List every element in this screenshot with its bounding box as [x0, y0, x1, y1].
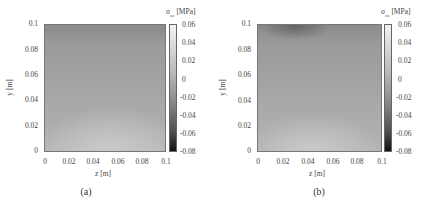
colorbar-tick: -0.06	[180, 129, 196, 138]
colorbar-tick: 0	[398, 75, 402, 84]
unit-label: [MPa]	[175, 7, 196, 16]
colorbar-label: σzz [MPa]	[381, 7, 411, 18]
colorbar-tick: -0.04	[180, 111, 196, 120]
colorbar-tick: -0.02	[396, 93, 412, 102]
colorbar-tick: 0.02	[398, 56, 411, 65]
colorbar-tick: -0.06	[396, 129, 412, 138]
x-tick: 0.1	[154, 157, 178, 166]
colorbar-tick: 0	[182, 75, 186, 84]
y-axis-label: y [m]	[218, 79, 227, 95]
y-tick: 0.04	[14, 95, 38, 104]
colorbar-tick: -0.04	[396, 111, 412, 120]
colorbar-a	[169, 24, 177, 152]
colorbar-tick: -0.02	[180, 93, 196, 102]
y-tick: 0.06	[227, 70, 251, 79]
x-tick: 0.04	[81, 157, 105, 166]
y-tick: 0	[227, 146, 251, 155]
heatmap-plot-b	[257, 24, 382, 152]
x-axis-label: z [m]	[95, 169, 111, 178]
y-axis-label: y [m]	[5, 79, 14, 95]
y-tick: 0.06	[14, 70, 38, 79]
colorbar-tick: 0.06	[398, 20, 411, 29]
x-tick: 0	[246, 157, 270, 166]
colorbar-tick: 0.04	[398, 38, 411, 47]
x-tick: 0.06	[106, 157, 130, 166]
x-tick: 0.04	[296, 157, 320, 166]
y-tick: 0.08	[227, 45, 251, 54]
y-tick: 0	[14, 146, 38, 155]
colorbar-tick: -0.08	[180, 147, 196, 156]
colorbar-b	[384, 24, 392, 152]
colorbar-tick: -0.08	[396, 147, 412, 156]
panel-a: 0.1 0.08 0.06 0.04 0.02 0 0 0.02 0.04 0.…	[0, 0, 210, 209]
heatmap-plot-a	[44, 24, 166, 152]
x-tick: 0	[33, 157, 57, 166]
colorbar-tick: 0.06	[182, 20, 195, 29]
x-tick: 0.02	[57, 157, 81, 166]
x-tick: 0.1	[370, 157, 394, 166]
x-tick: 0.08	[345, 157, 369, 166]
y-tick: 0.1	[227, 19, 251, 28]
y-tick: 0.08	[14, 45, 38, 54]
y-tick: 0.02	[14, 121, 38, 130]
unit-label: [MPa]	[390, 7, 411, 16]
x-axis-label: z [m]	[309, 169, 325, 178]
colorbar-label: σzz [MPa]	[166, 7, 196, 18]
y-tick: 0.04	[227, 96, 251, 105]
colorbar-tick: 0.02	[182, 56, 195, 65]
panel-caption: (b)	[304, 186, 334, 197]
y-tick: 0.02	[227, 121, 251, 130]
y-tick: 0.1	[14, 19, 38, 28]
x-tick: 0.08	[130, 157, 154, 166]
x-tick: 0.02	[271, 157, 295, 166]
panel-caption: (a)	[71, 186, 101, 197]
panel-b: 0.1 0.08 0.06 0.04 0.02 0 0 0.02 0.04 0.…	[213, 0, 421, 209]
x-tick: 0.06	[321, 157, 345, 166]
colorbar-tick: 0.04	[182, 38, 195, 47]
